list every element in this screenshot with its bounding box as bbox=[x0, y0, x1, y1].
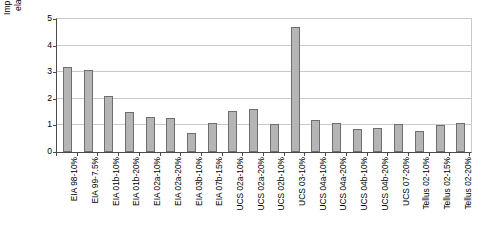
y-axis-tick-mark bbox=[53, 72, 57, 73]
bar-slot bbox=[161, 19, 182, 152]
x-axis-tick-mark bbox=[304, 152, 305, 156]
x-axis-tick-mark bbox=[387, 152, 388, 156]
x-axis-label-cell: Tellus 02-15% bbox=[429, 157, 450, 231]
x-axis-label-cell: EIA 02a-20% bbox=[160, 157, 181, 231]
x-axis-label-cell: EIA 02a-10% bbox=[139, 157, 160, 231]
bar-slot bbox=[347, 19, 368, 152]
x-axis-tick-cell bbox=[139, 152, 160, 156]
x-axis-label-cell: EIA 07b-15% bbox=[201, 157, 222, 231]
x-axis-tick-mark bbox=[429, 152, 430, 156]
bar bbox=[63, 67, 72, 152]
bar bbox=[249, 109, 258, 152]
bar-slot bbox=[57, 19, 78, 152]
y-axis-tick-mark bbox=[53, 125, 57, 126]
x-axis-label-cell: EIA 03b-10% bbox=[180, 157, 201, 231]
x-axis-label-cell: EIA 01b-20% bbox=[118, 157, 139, 231]
x-axis-tick-cell bbox=[429, 152, 450, 156]
x-axis-label-cell: EIA 01b-10% bbox=[97, 157, 118, 231]
bar bbox=[228, 111, 237, 152]
y-axis-tick-label: 2 bbox=[36, 93, 52, 102]
y-axis-tick-mark bbox=[53, 99, 57, 100]
bar bbox=[125, 112, 134, 152]
x-axis-tick-cell bbox=[284, 152, 305, 156]
x-axis-label-cell: UCS 07-20% bbox=[387, 157, 408, 231]
x-axis-tick-mark bbox=[325, 152, 326, 156]
x-axis-label-cell: Tellus 02-10% bbox=[408, 157, 429, 231]
x-axis-tick-mark bbox=[97, 152, 98, 156]
y-axis-tick-mark bbox=[53, 46, 57, 47]
x-axis-label-cell: EIA 99-7.5% bbox=[77, 157, 98, 231]
x-axis-tick-mark bbox=[469, 152, 470, 156]
bar-slot bbox=[368, 19, 389, 152]
bar bbox=[332, 123, 341, 152]
x-axis-label-cell: EIA 98-10% bbox=[56, 157, 77, 231]
x-axis-tick-mark bbox=[160, 152, 161, 156]
x-axis-tick-cell bbox=[118, 152, 139, 156]
x-axis-label-cell: Tellus 02-20% bbox=[449, 157, 470, 231]
bar-slot bbox=[388, 19, 409, 152]
bar bbox=[456, 123, 465, 152]
x-axis-tick-cell bbox=[408, 152, 429, 156]
x-axis-tick-cell bbox=[387, 152, 408, 156]
x-axis-tick-mark bbox=[284, 152, 285, 156]
bar-slot bbox=[450, 19, 471, 152]
x-axis-tick-mark bbox=[77, 152, 78, 156]
x-axis-tick-mark bbox=[222, 152, 223, 156]
bar bbox=[291, 27, 300, 152]
bar-slot bbox=[326, 19, 347, 152]
bar-slot bbox=[119, 19, 140, 152]
y-axis-tick-label: 4 bbox=[36, 40, 52, 49]
y-axis-tick-mark bbox=[53, 19, 57, 20]
x-axis-tick-marks bbox=[56, 152, 470, 156]
x-axis-label-cell: UCS 04b-10% bbox=[346, 157, 367, 231]
y-axis-tick-label: 5 bbox=[36, 14, 52, 23]
bar bbox=[146, 117, 155, 152]
x-axis-tick-cell bbox=[97, 152, 118, 156]
x-axis-tick-cell bbox=[242, 152, 263, 156]
x-axis-tick-mark bbox=[242, 152, 243, 156]
x-axis-tick-mark bbox=[180, 152, 181, 156]
x-axis-tick-cell bbox=[180, 152, 201, 156]
bar-slot bbox=[140, 19, 161, 152]
x-axis-tick-mark bbox=[201, 152, 202, 156]
x-axis-tick-mark bbox=[118, 152, 119, 156]
bar-slot bbox=[243, 19, 264, 152]
bar-slot bbox=[305, 19, 326, 152]
x-axis-tick-cell bbox=[367, 152, 388, 156]
bar-slot bbox=[181, 19, 202, 152]
bar-chart: Implicit inverse price elasticity of sup… bbox=[0, 0, 493, 233]
x-axis-label-cell: UCS 03-10% bbox=[284, 157, 305, 231]
x-axis-tick-cell bbox=[201, 152, 222, 156]
x-axis-label-cell: UCS 04b-20% bbox=[367, 157, 388, 231]
bar bbox=[104, 96, 113, 152]
x-axis-tick-mark bbox=[408, 152, 409, 156]
x-axis-tick-cell bbox=[160, 152, 181, 156]
bars-layer bbox=[57, 19, 471, 152]
bar-slot bbox=[430, 19, 451, 152]
x-axis-tick-cell bbox=[304, 152, 325, 156]
bar-slot bbox=[98, 19, 119, 152]
x-axis-tick-cell bbox=[449, 152, 470, 156]
bar bbox=[311, 120, 320, 152]
bar bbox=[187, 133, 196, 152]
bar-slot bbox=[285, 19, 306, 152]
x-axis-tick-mark bbox=[56, 152, 57, 156]
x-axis-tick-label: Tellus 02-20% bbox=[464, 157, 473, 210]
bar bbox=[415, 131, 424, 152]
x-axis-tick-mark bbox=[367, 152, 368, 156]
y-axis-tick-label: 0 bbox=[36, 147, 52, 156]
bar bbox=[394, 124, 403, 152]
bar-slot bbox=[264, 19, 285, 152]
x-axis-tick-mark bbox=[139, 152, 140, 156]
y-axis-tick-label: 1 bbox=[36, 120, 52, 129]
bar bbox=[270, 124, 279, 152]
x-axis-label-cell: UCS 04a-20% bbox=[325, 157, 346, 231]
x-axis-tick-mark bbox=[346, 152, 347, 156]
x-axis-tick-labels: EIA 98-10%EIA 99-7.5%EIA 01b-10%EIA 01b-… bbox=[56, 157, 470, 231]
x-axis-label-cell: UCS 02a-10% bbox=[222, 157, 243, 231]
x-axis-tick-cell bbox=[77, 152, 98, 156]
bar-slot bbox=[223, 19, 244, 152]
bar-slot bbox=[78, 19, 99, 152]
bar-slot bbox=[202, 19, 223, 152]
plot-area bbox=[56, 18, 472, 153]
